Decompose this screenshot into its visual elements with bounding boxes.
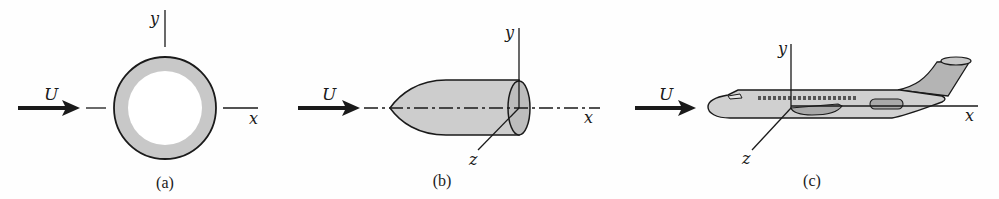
y-axis-label: y	[504, 23, 515, 42]
panel-c: U	[635, 39, 978, 190]
z-axis-label: z	[468, 150, 478, 169]
x-axis-label: x	[249, 109, 258, 128]
figure-canvas: U y x (a) U y z x (b)	[0, 0, 999, 199]
caption-b: (b)	[433, 172, 452, 190]
y-axis-label: y	[777, 39, 788, 58]
panel-b: U y z x (b)	[298, 23, 600, 190]
z-axis-label: z	[741, 149, 751, 168]
flow-label-u: U	[659, 84, 674, 104]
cylinder-ring	[114, 57, 216, 159]
caption-c: (c)	[803, 172, 821, 190]
y-axis-label: y	[149, 9, 160, 28]
x-axis-label: x	[965, 106, 974, 125]
airplane-icon	[708, 57, 971, 118]
flow-label-u: U	[322, 84, 337, 104]
panel-a: U y x (a)	[18, 9, 258, 192]
flow-label-u: U	[44, 84, 59, 104]
diagram-svg: U y x (a) U y z x (b)	[0, 0, 999, 199]
x-axis-label: x	[584, 108, 593, 127]
caption-a: (a)	[156, 174, 174, 192]
